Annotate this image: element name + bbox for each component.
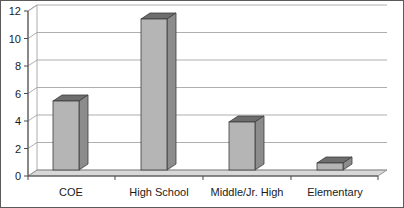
- y-tick-label-10: 10: [9, 33, 21, 45]
- x-category-label-middle-jr-high: Middle/Jr. High: [211, 186, 284, 198]
- y-tick-label-2: 2: [15, 143, 21, 155]
- y-tick-label-6: 6: [15, 88, 21, 100]
- bar-high-school[interactable]: [141, 13, 176, 170]
- bar-coe[interactable]: [53, 95, 88, 170]
- bar-coe-side: [79, 95, 88, 170]
- bar-middle-jr-high-side: [255, 116, 264, 170]
- bar-middle-jr-high[interactable]: [229, 116, 264, 170]
- bar-elementary-front: [317, 163, 343, 170]
- y-tick-label-4: 4: [15, 115, 21, 127]
- bar-middle-jr-high-front: [229, 122, 255, 170]
- x-category-label-elementary: Elementary: [307, 186, 363, 198]
- y-tick-label-12: 12: [9, 5, 21, 17]
- chart-canvas: 12 10 8 6 4 2 0: [0, 0, 404, 208]
- bar-high-school-side: [167, 13, 176, 170]
- y-tick-label-0: 0: [15, 170, 21, 182]
- bar-coe-front: [53, 101, 79, 170]
- bar-high-school-front: [141, 19, 167, 170]
- y-tick-label-8: 8: [15, 60, 21, 72]
- x-category-label-high-school: High School: [129, 186, 188, 198]
- bar-chart-figure: 12 10 8 6 4 2 0: [0, 0, 404, 208]
- plot-floor: [28, 170, 387, 176]
- x-category-label-coe: COE: [59, 186, 83, 198]
